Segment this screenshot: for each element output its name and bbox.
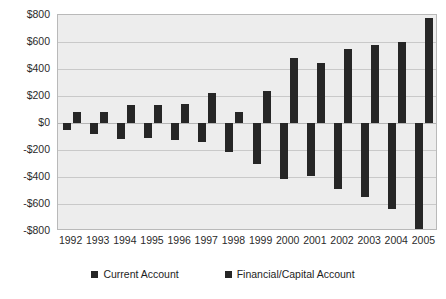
bar: [63, 123, 71, 130]
y-axis-tick-label: -$600: [0, 197, 50, 209]
bar: [280, 123, 288, 179]
y-axis-tick-label: $800: [0, 8, 50, 20]
x-axis-tick-label: 2005: [412, 234, 435, 246]
bar: [117, 123, 125, 139]
bar: [144, 123, 152, 138]
bar: [263, 91, 271, 123]
gridline: [58, 96, 436, 97]
bar: [371, 45, 379, 123]
x-axis-tick-label: 1997: [195, 234, 218, 246]
x-axis-tick-label: 1993: [86, 234, 109, 246]
bar: [198, 123, 206, 142]
y-axis-tick-label: -$400: [0, 170, 50, 182]
bar: [415, 123, 423, 230]
bar: [73, 112, 81, 123]
legend-swatch-icon: [225, 271, 232, 278]
x-axis-tick-label: 1999: [249, 234, 272, 246]
y-axis-tick-label: $0: [0, 116, 50, 128]
gridline: [58, 42, 436, 43]
bar: [225, 123, 233, 152]
x-axis-tick-label: 2003: [357, 234, 380, 246]
bar: [290, 58, 298, 123]
bar: [425, 18, 433, 123]
x-axis-tick-label: 1995: [140, 234, 163, 246]
y-axis-tick-label: $200: [0, 89, 50, 101]
bar: [317, 63, 325, 123]
x-axis-tick-label: 2002: [330, 234, 353, 246]
bar: [127, 105, 135, 123]
y-axis-tick-label: -$200: [0, 143, 50, 155]
bar: [344, 49, 352, 123]
x-axis-tick-label: 1998: [222, 234, 245, 246]
gridline: [58, 123, 436, 124]
bar: [398, 42, 406, 123]
y-axis-tick-label: $400: [0, 62, 50, 74]
legend-swatch-icon: [91, 271, 98, 278]
bar: [334, 123, 342, 189]
chart-legend: Current AccountFinancial/Capital Account: [0, 268, 446, 280]
legend-entry[interactable]: Financial/Capital Account: [225, 268, 355, 280]
bar: [100, 112, 108, 123]
bar: [154, 105, 162, 123]
bar: [171, 123, 179, 140]
gridline: [58, 177, 436, 178]
bar-chart: $800$600$400$200$0-$200-$400-$600-$800 1…: [0, 0, 446, 299]
x-axis-tick-label: 1994: [113, 234, 136, 246]
y-axis-tick-label: -$800: [0, 224, 50, 236]
bar: [253, 123, 261, 164]
bar: [361, 123, 369, 197]
plot-area: [57, 14, 437, 230]
bar: [181, 104, 189, 123]
x-axis-tick-label: 2004: [385, 234, 408, 246]
bar: [235, 112, 243, 123]
gridline: [58, 150, 436, 151]
x-axis-tick-label: 2001: [303, 234, 326, 246]
bar: [388, 123, 396, 209]
x-axis-tick-label: 1992: [59, 234, 82, 246]
legend-label: Current Account: [103, 268, 178, 280]
x-axis-tick-label: 2000: [276, 234, 299, 246]
bar: [90, 123, 98, 134]
legend-entry[interactable]: Current Account: [91, 268, 178, 280]
gridline: [58, 69, 436, 70]
legend-label: Financial/Capital Account: [237, 268, 355, 280]
gridline: [58, 204, 436, 205]
x-axis-tick-label: 1996: [167, 234, 190, 246]
bar: [208, 93, 216, 123]
bar: [307, 123, 315, 176]
y-axis-tick-label: $600: [0, 35, 50, 47]
